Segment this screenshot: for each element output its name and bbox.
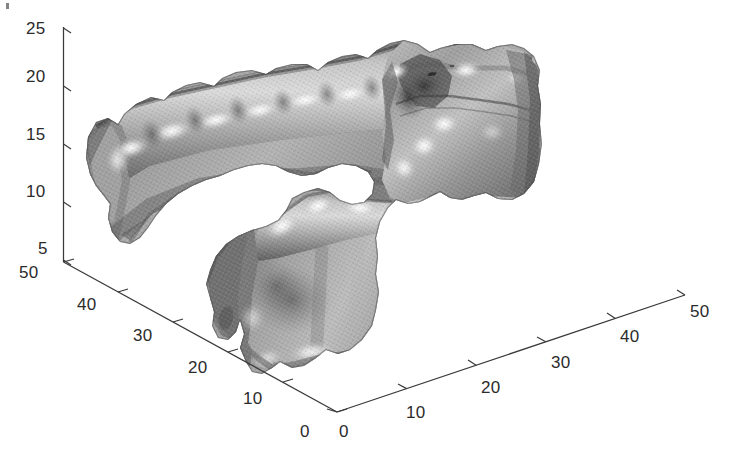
x-tick-0: 0	[339, 423, 349, 440]
x-tick-30: 30	[551, 354, 571, 371]
y-tick-0: 0	[300, 423, 310, 440]
x-tick-40: 40	[620, 328, 640, 345]
scan-artifact-speck	[0, 0, 738, 470]
y-tick-50: 50	[19, 264, 39, 281]
y-tick-20: 20	[188, 359, 208, 376]
matlab-figure-canvas: 25 20 15 10 5 50 40 30 20 10 0 0 10 20 3…	[0, 0, 738, 470]
y-tick-40: 40	[77, 296, 97, 313]
z-tick-15: 15	[26, 126, 46, 143]
z-tick-10: 10	[26, 183, 46, 200]
y-tick-30: 30	[133, 327, 153, 344]
y-tick-10: 10	[243, 390, 263, 407]
z-tick-20: 20	[26, 68, 46, 85]
z-tick-25: 25	[26, 20, 46, 37]
x-tick-50: 50	[690, 303, 710, 320]
z-tick-5: 5	[38, 240, 48, 257]
x-tick-10: 10	[406, 404, 426, 421]
x-tick-20: 20	[481, 379, 501, 396]
